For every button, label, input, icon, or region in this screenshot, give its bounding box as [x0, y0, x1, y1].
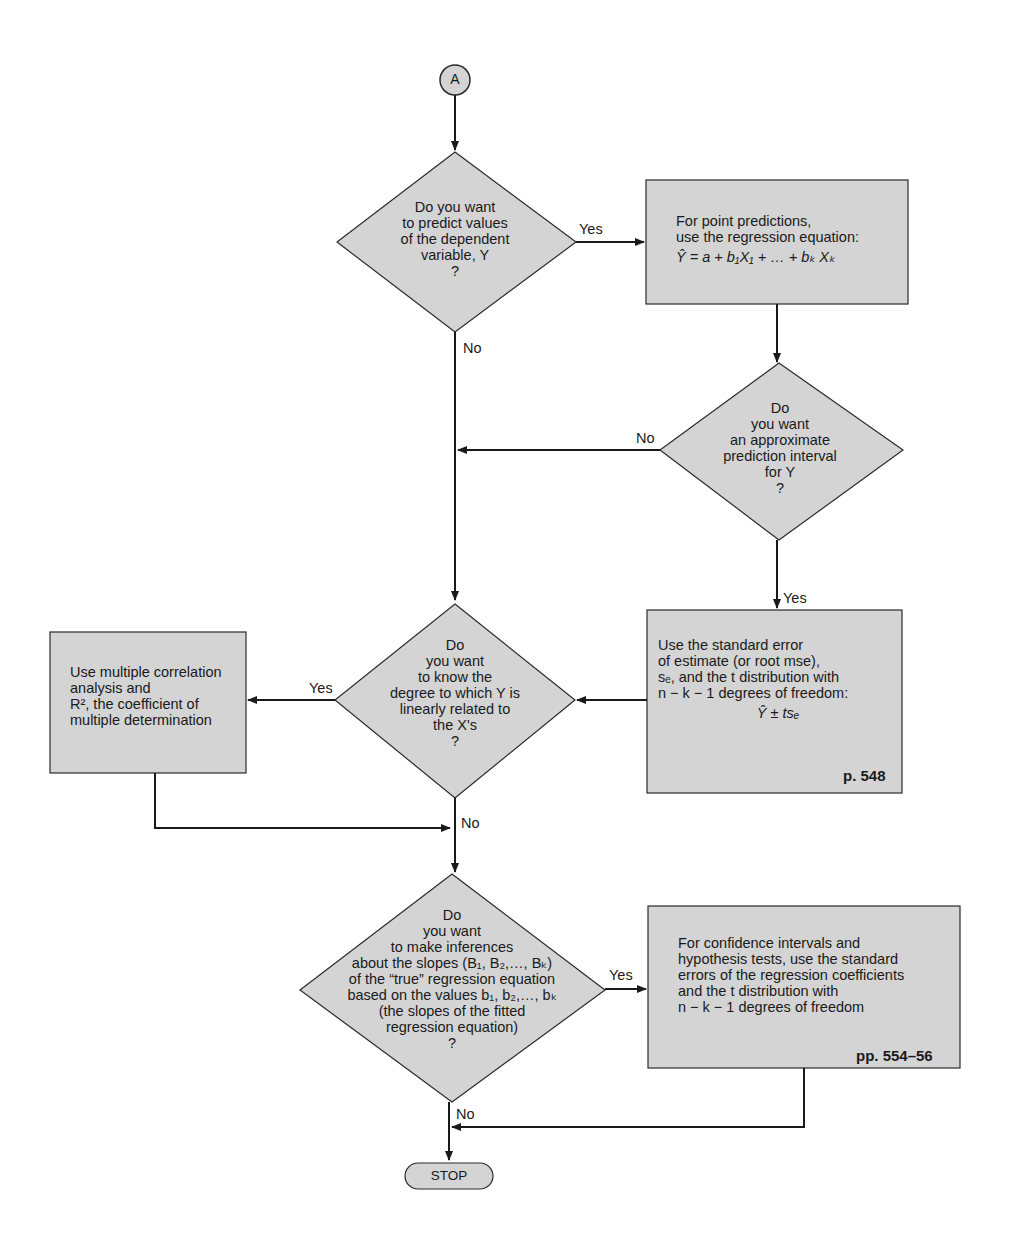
process-4-page-ref: pp. 554–56	[856, 1047, 933, 1064]
d3-no-label: No	[461, 815, 480, 831]
d3-yes-label: Yes	[309, 680, 333, 696]
process-4-text: For confidence intervals and hypothesis …	[678, 935, 958, 1015]
d4-no-label: No	[456, 1106, 475, 1122]
d2-yes-label: Yes	[783, 590, 807, 606]
decision-4-text: Do you want to make inferences about the…	[320, 907, 584, 1051]
d1-no-label: No	[463, 340, 482, 356]
decision-2-text: Do you want an approximate prediction in…	[705, 400, 855, 496]
decision-3-text: Do you want to know the degree to which …	[375, 637, 535, 749]
process-2-text: Use the standard error of estimate (or r…	[658, 637, 898, 721]
process-1-text: For point predictions, use the regressio…	[676, 213, 906, 265]
process-2-page-ref: p. 548	[843, 767, 886, 784]
start-label: A	[440, 71, 470, 87]
d1-yes-label: Yes	[579, 221, 603, 237]
decision-1-text: Do you want to predict values of the dep…	[375, 199, 535, 279]
stop-label: STOP	[405, 1168, 493, 1183]
d2-no-label: No	[636, 430, 655, 446]
d4-yes-label: Yes	[609, 967, 633, 983]
process-3-text: Use multiple correlation analysis and R²…	[70, 664, 245, 728]
